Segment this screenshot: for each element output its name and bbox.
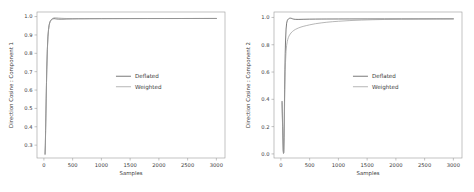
- y-tick-label: 0.8: [24, 50, 32, 56]
- x-tick-label: 2000: [389, 162, 402, 168]
- y-tick-label: 0.2: [261, 124, 269, 130]
- y-tick-label: 1.0: [261, 14, 269, 20]
- y-tick-label: 0.6: [261, 69, 269, 75]
- legend-label: Deflated: [372, 73, 396, 79]
- y-tick-label: 0.0: [261, 151, 269, 157]
- y-tick-label: 0.5: [24, 105, 32, 111]
- x-tick-label: 0: [279, 162, 282, 168]
- y-tick-label: 0.4: [261, 96, 270, 102]
- x-tick-label: 1500: [361, 162, 374, 168]
- x-tick-label: 1000: [332, 162, 345, 168]
- chart-svg-component-2: 0500100015002000250030000.00.20.40.60.81…: [237, 0, 474, 192]
- data-series-line: [282, 18, 453, 153]
- legend-label: Weighted: [372, 84, 399, 91]
- x-tick-label: 500: [68, 162, 78, 168]
- y-tick-label: 0.4: [24, 124, 33, 130]
- x-tick-label: 500: [305, 162, 315, 168]
- y-axis-label: Direction Cosine : Component 1: [8, 42, 15, 128]
- y-tick-label: 0.9: [24, 32, 32, 38]
- chart-svg-component-1: 0500100015002000250030000.30.40.50.60.70…: [0, 0, 237, 192]
- x-tick-label: 2000: [152, 162, 165, 168]
- plot-frame: [274, 12, 462, 158]
- x-axis-label: Samples: [356, 170, 379, 177]
- plot-frame: [37, 12, 225, 158]
- legend: DeflatedWeighted: [353, 73, 399, 91]
- x-tick-label: 3000: [210, 162, 223, 168]
- x-tick-label: 0: [42, 162, 45, 168]
- data-series-line: [45, 18, 216, 155]
- data-series-line: [45, 18, 216, 154]
- y-tick-label: 1.0: [24, 13, 32, 19]
- chart-panel-component-2: 0500100015002000250030000.00.20.40.60.81…: [237, 0, 474, 192]
- x-tick-label: 1500: [124, 162, 137, 168]
- legend: DeflatedWeighted: [116, 73, 162, 91]
- x-tick-label: 1000: [95, 162, 108, 168]
- y-tick-label: 0.3: [24, 142, 32, 148]
- legend-label: Deflated: [135, 73, 159, 79]
- y-tick-label: 0.8: [261, 42, 269, 48]
- figure-container: 0500100015002000250030000.30.40.50.60.70…: [0, 0, 474, 192]
- y-tick-label: 0.6: [24, 87, 32, 93]
- x-axis-label: Samples: [119, 170, 142, 177]
- x-tick-label: 2500: [418, 162, 431, 168]
- data-series-line: [282, 19, 453, 154]
- y-tick-label: 0.7: [24, 69, 32, 75]
- x-tick-label: 2500: [181, 162, 194, 168]
- x-tick-label: 3000: [447, 162, 460, 168]
- legend-label: Weighted: [135, 84, 162, 91]
- chart-panel-component-1: 0500100015002000250030000.30.40.50.60.70…: [0, 0, 237, 192]
- y-axis-label: Direction Cosine : Component 2: [245, 42, 252, 128]
